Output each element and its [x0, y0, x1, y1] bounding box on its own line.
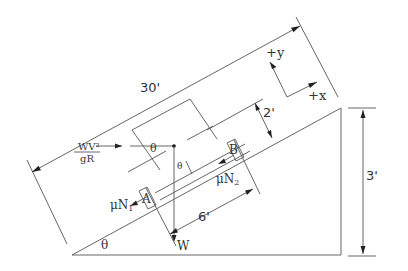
label-friction-1: μN1 — [110, 198, 133, 213]
label-axis-x: +x — [308, 88, 327, 103]
label-centrifugal-den: gR — [80, 153, 94, 164]
friction-arrow-2 — [218, 155, 234, 164]
label-3ft: 3' — [366, 168, 378, 183]
theta-ref-line-2 — [186, 161, 192, 174]
label-weight: W — [177, 239, 190, 253]
label-theta-small: θ — [177, 161, 182, 171]
label-30ft: 30' — [140, 80, 160, 95]
theta-ref-line-1 — [128, 151, 166, 172]
box-center-line — [187, 126, 213, 140]
label-theta-top: θ — [150, 142, 157, 155]
label-axis-y: +y — [266, 45, 285, 60]
block — [132, 99, 217, 170]
label-centrifugal-num: WV² — [78, 141, 100, 152]
dimension-6ft — [170, 189, 253, 234]
weight-arrow — [172, 146, 177, 242]
incline-triangle — [72, 108, 341, 255]
label-friction-2: μN2 — [216, 172, 239, 187]
label-6ft: 6' — [198, 209, 210, 224]
support-bar — [146, 140, 260, 246]
label-2ft: 2' — [263, 105, 275, 120]
dimension-30ft — [27, 17, 338, 244]
label-theta-base: θ — [101, 238, 108, 252]
free-body-diagram: 3' 30' +y +x 2' A — [0, 0, 408, 271]
